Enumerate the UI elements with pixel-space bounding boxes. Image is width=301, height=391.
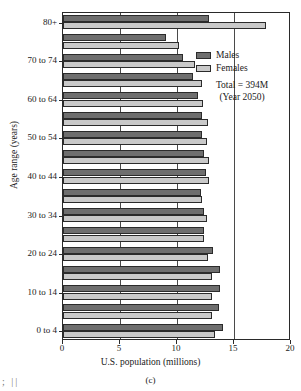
legend-swatch-females-icon [196, 65, 211, 72]
y-tick-label: 20 to 24 [0, 249, 57, 258]
legend-entry-males: Males [196, 50, 292, 60]
x-tick-label-15: 15 [218, 344, 248, 353]
panel-caption: (c) [0, 375, 301, 385]
legend-year: (Year 2050) [196, 91, 288, 103]
x-axis-title: U.S. population (millions) [0, 357, 301, 367]
x-tick-label-10: 10 [161, 344, 191, 353]
legend-entry-females: Females [196, 63, 292, 73]
x-tick-label-5: 5 [104, 344, 134, 353]
legend-label-males: Males [216, 50, 239, 60]
legend: Males Females Total = 394M (Year 2050) [196, 50, 292, 103]
x-axis-tick-labels: 05101520 [0, 342, 301, 356]
y-tick-label: 70 to 74 [0, 56, 57, 65]
legend-total: Total = 394M [196, 79, 288, 91]
y-tick-label: 0 to 4 [0, 326, 57, 335]
y-axis-title: Age range (years) [9, 95, 19, 215]
legend-swatch-males-icon [196, 52, 211, 59]
x-tick-label-0: 0 [47, 344, 77, 353]
legend-annotations: Total = 394M (Year 2050) [196, 79, 292, 103]
legend-label-females: Females [216, 63, 248, 73]
scan-artifact-marks: ; || [2, 376, 19, 387]
y-tick-label: 80+ [0, 18, 57, 27]
x-tick-label-20: 20 [275, 344, 301, 353]
y-tick-label: 10 to 14 [0, 288, 57, 297]
population-pyramid-figure: 0 to 410 to 1420 to 2430 to 3440 to 4450… [0, 0, 301, 391]
